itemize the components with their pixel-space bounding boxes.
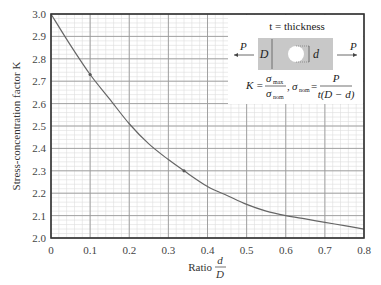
y-tick-label: 2.8 <box>32 53 46 65</box>
stress-concentration-chart: t = thickness D d P P K = σ max σ nom , … <box>0 0 381 285</box>
x-tick-label: 0.7 <box>318 244 332 256</box>
y-tick-label: 2.2 <box>32 187 46 199</box>
sigma-nom-eq-symbol: σ <box>292 80 298 92</box>
inset-thickness-label: t = thickness <box>269 20 325 32</box>
sigma-max-subscript: max <box>273 79 283 85</box>
formula-separator: , <box>287 80 290 92</box>
x-axis-title-prefix: Ratio <box>188 261 212 273</box>
y-tick-label: 2.5 <box>32 120 46 132</box>
x-tick-label: 0.4 <box>201 244 215 256</box>
hole-shape <box>288 46 304 62</box>
sigma-nom-symbol: σ <box>266 87 272 99</box>
left-load-label: P <box>239 40 247 52</box>
x-tick-label: 0.2 <box>122 244 136 256</box>
formula-K-label: K = <box>245 79 264 91</box>
data-point-marker <box>182 169 185 172</box>
y-tick-label: 2.9 <box>32 30 46 42</box>
sigma-max-symbol: σ <box>266 72 272 84</box>
x-axis-title-denominator: D <box>215 268 224 280</box>
inset-diagram: t = thickness D d P P K = σ max σ nom , … <box>228 15 363 104</box>
x-axis-title-numerator: d <box>217 254 223 266</box>
x-tick-label: 0.3 <box>162 244 176 256</box>
y-tick-label: 2.7 <box>32 75 46 87</box>
denominator-expression: t(D − d) <box>318 88 355 101</box>
x-tick-label: 0 <box>48 244 54 256</box>
x-tick-label: 0.5 <box>240 244 254 256</box>
y-tick-labels: 2.02.12.22.32.42.52.62.72.82.93.0 <box>32 8 46 244</box>
y-tick-label: 2.6 <box>32 98 46 110</box>
right-load-label: P <box>349 40 357 52</box>
x-tick-label: 0.8 <box>357 244 371 256</box>
x-tick-label: 0.6 <box>279 244 293 256</box>
hole-label: d <box>313 47 320 61</box>
y-tick-label: 2.3 <box>32 165 46 177</box>
numerator-P: P <box>332 72 340 84</box>
sigma-nom-subscript: nom <box>273 94 284 100</box>
y-tick-label: 2.0 <box>32 232 46 244</box>
x-tick-labels: 00.10.20.30.40.50.60.70.8 <box>48 244 371 256</box>
x-tick-label: 0.1 <box>83 244 97 256</box>
data-point-marker <box>89 73 92 76</box>
width-label: D <box>259 47 269 61</box>
y-axis-title: Stress-concentration factor K <box>10 62 22 191</box>
y-tick-label: 2.4 <box>32 142 46 154</box>
sigma-nom-eq-subscript: nom <box>299 87 310 93</box>
y-tick-label: 3.0 <box>32 8 46 20</box>
equals-sign: = <box>311 80 317 92</box>
y-tick-label: 2.1 <box>32 210 46 222</box>
